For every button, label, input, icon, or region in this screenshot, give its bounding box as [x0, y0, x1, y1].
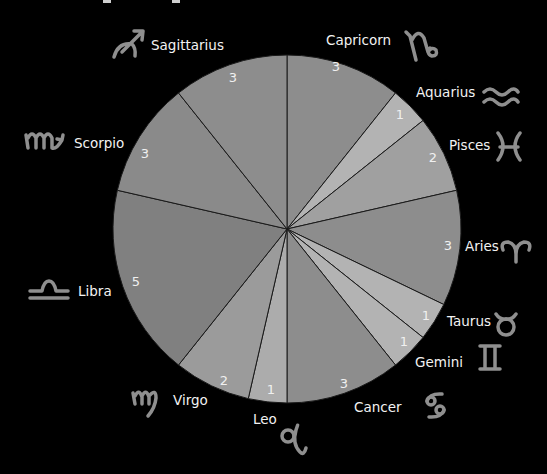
label-leo: Leo	[253, 411, 277, 427]
value-gemini: 1	[400, 334, 408, 349]
label-aries: Aries	[465, 238, 499, 254]
aquarius-icon	[484, 89, 518, 105]
value-sagittarius: 3	[229, 70, 237, 85]
value-cancer: 3	[340, 376, 348, 391]
scorpio-icon	[26, 134, 63, 148]
pie-slices	[113, 55, 461, 403]
label-scorpio: Scorpio	[74, 135, 124, 151]
aries-icon	[502, 242, 530, 262]
cropped-text-fragment	[172, 0, 180, 3]
taurus-icon	[496, 314, 516, 335]
value-scorpio: 3	[141, 146, 149, 161]
label-pisces: Pisces	[449, 137, 490, 153]
label-virgo: Virgo	[173, 392, 208, 408]
label-capricorn: Capricorn	[326, 32, 391, 48]
value-capricorn: 3	[332, 59, 340, 74]
label-cancer: Cancer	[354, 399, 402, 415]
cancer-icon	[427, 394, 444, 417]
value-virgo: 2	[220, 373, 228, 388]
label-aquarius: Aquarius	[416, 84, 475, 100]
zodiac-pie-chart: 3 1 2 3 1 1 3 1 2 5 3 3 Capricorn Aquari…	[0, 0, 547, 474]
value-taurus: 1	[422, 308, 430, 323]
pisces-icon	[498, 133, 520, 160]
capricorn-icon	[406, 32, 437, 60]
libra-icon	[30, 281, 68, 298]
gemini-icon	[480, 346, 500, 369]
value-aries: 3	[444, 238, 452, 253]
value-aquarius: 1	[396, 107, 404, 122]
value-leo: 1	[267, 382, 275, 397]
value-pisces: 2	[429, 150, 437, 165]
virgo-icon	[133, 392, 156, 416]
label-sagittarius: Sagittarius	[151, 37, 224, 53]
label-taurus: Taurus	[446, 313, 491, 329]
value-libra: 5	[132, 274, 140, 289]
label-gemini: Gemini	[415, 354, 463, 370]
label-libra: Libra	[78, 283, 112, 299]
leo-icon	[282, 425, 306, 453]
sagittarius-icon	[114, 31, 143, 57]
cropped-text-fragment	[103, 0, 111, 3]
